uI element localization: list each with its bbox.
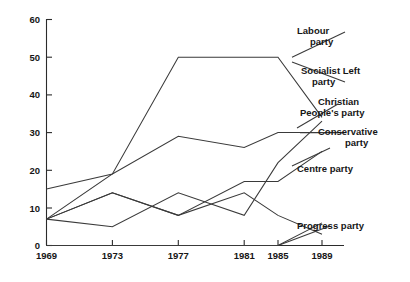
x-axis-label-1981: 1981: [234, 250, 256, 261]
legend-label-socialist-left-line1: Socialist Left: [301, 65, 361, 76]
y-axis-label-30: 30: [29, 127, 40, 138]
line-chart-figure: 60 50 40 30 20 10 0 1969 1973 1977 1981 …: [0, 0, 410, 282]
series-line-centre-party: [47, 151, 323, 219]
legend-label-socialist-left-line2: party: [312, 76, 336, 87]
series-line-socialist-left-party: [47, 193, 323, 234]
y-axis-label-50: 50: [29, 52, 40, 63]
y-axis-ticks: [47, 20, 53, 246]
series-line-progress-party: [47, 223, 323, 246]
legend-label-conservative-line1: Conservative: [318, 126, 378, 137]
legend-label-christian-peoples-line1: Christian: [318, 96, 359, 107]
legend-label-centre: Centre party: [297, 163, 354, 174]
x-axis-label-1989: 1989: [311, 250, 332, 261]
x-axis-label-1969: 1969: [36, 250, 57, 261]
legend-label-progress: Progress party: [297, 220, 365, 231]
y-axis-label-60: 60: [29, 14, 40, 25]
legend-label-labour-line2: party: [310, 36, 334, 47]
y-axis-label-40: 40: [29, 89, 40, 100]
x-axis-labels: 1969 1973 1977 1981 1985 1989: [36, 250, 333, 261]
x-axis-label-1977: 1977: [168, 250, 189, 261]
x-axis-label-1985: 1985: [267, 250, 289, 261]
y-axis-labels: 60 50 40 30 20 10 0: [29, 14, 40, 251]
legend-labels-group: Labour party Socialist Left party Christ…: [297, 25, 378, 231]
legend-label-christian-peoples-line2: People's party: [300, 107, 365, 118]
legend-label-conservative-line2: party: [345, 137, 369, 148]
y-axis-label-20: 20: [29, 165, 40, 176]
y-axis-label-10: 10: [29, 203, 40, 214]
chart-plot-area: 60 50 40 30 20 10 0 1969 1973 1977 1981 …: [0, 0, 410, 282]
x-axis-label-1973: 1973: [102, 250, 123, 261]
series-lines-group: [47, 57, 323, 245]
legend-label-labour-line1: Labour: [297, 25, 329, 36]
